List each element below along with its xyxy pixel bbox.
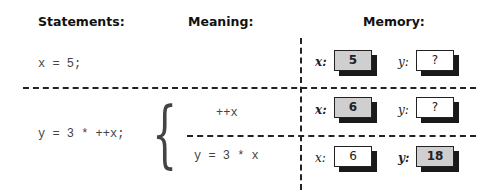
curly-brace: { bbox=[152, 92, 177, 176]
memory-label-y: y: bbox=[398, 55, 409, 69]
meaning-preincrement-x: ++x bbox=[216, 106, 238, 120]
memory-label-x: x: bbox=[315, 151, 326, 165]
memory-header: Memory: bbox=[363, 14, 425, 29]
statements-header: Statements: bbox=[38, 14, 125, 29]
memory-value-x: 6 bbox=[334, 146, 372, 167]
memory-box-x: 6 bbox=[334, 146, 372, 167]
memory-value-y: ? bbox=[416, 50, 454, 71]
meaning-header: Meaning: bbox=[188, 14, 253, 29]
statement-y-equals-3-times-preincrement-x: y = 3 * ++x; bbox=[38, 127, 124, 141]
memory-box-x: 6 bbox=[334, 97, 372, 118]
memory-label-x: x: bbox=[315, 55, 327, 69]
memory-value-y: ? bbox=[416, 97, 454, 118]
memory-value-y: 18 bbox=[416, 146, 454, 167]
meaning-step-divider bbox=[187, 135, 476, 137]
memory-label-x: x: bbox=[315, 103, 327, 117]
memory-label-y: y: bbox=[398, 103, 409, 117]
memory-column-divider bbox=[300, 38, 302, 190]
memory-box-y: ? bbox=[416, 50, 454, 71]
memory-box-x: 5 bbox=[334, 50, 372, 71]
row-divider bbox=[23, 87, 476, 89]
memory-box-y: ? bbox=[416, 97, 454, 118]
meaning-y-equals-3-times-x: y = 3 * x bbox=[194, 149, 259, 163]
memory-label-y: y: bbox=[398, 151, 409, 165]
memory-box-y: 18 bbox=[416, 146, 454, 167]
memory-value-x: 6 bbox=[334, 97, 372, 118]
memory-value-x: 5 bbox=[334, 50, 372, 71]
statement-x-equals-5: x = 5; bbox=[38, 57, 81, 71]
